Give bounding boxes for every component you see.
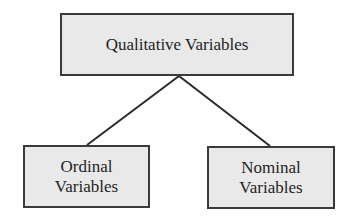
node-label-line1: Ordinal	[55, 157, 118, 177]
node-label-line1: Nominal	[239, 158, 302, 178]
connector-root-to-nominal	[179, 76, 270, 146]
node-label-line2: Variables	[239, 178, 302, 198]
node-ordinal-variables: Ordinal Variables	[23, 145, 150, 208]
node-label-line2: Variables	[55, 177, 118, 197]
hierarchy-diagram: Qualitative Variables Ordinal Variables …	[0, 0, 351, 224]
node-nominal-variables: Nominal Variables	[207, 146, 335, 209]
node-label: Qualitative Variables	[106, 35, 249, 55]
node-qualitative-variables: Qualitative Variables	[60, 13, 294, 76]
connector-root-to-ordinal	[87, 76, 179, 145]
